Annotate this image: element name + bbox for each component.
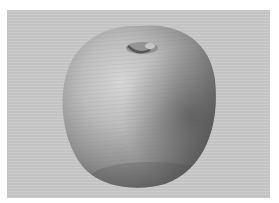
apple-stem-cavity [126,42,158,54]
apple-sketch [0,0,279,203]
